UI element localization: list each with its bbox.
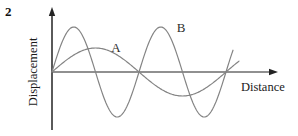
- question-number: 2: [5, 5, 12, 18]
- y-axis-arrowhead-icon: [49, 7, 55, 16]
- x-axis-label: Distance: [241, 81, 285, 94]
- y-axis-label: Displacement: [27, 38, 40, 107]
- wave-b-label: B: [177, 21, 186, 34]
- physics-wave-figure: 2 Displacement Distance A B: [0, 0, 298, 136]
- wave-a-label: A: [111, 41, 120, 54]
- x-axis-arrowhead-icon: [269, 69, 278, 75]
- wave-figure-svg: [0, 0, 298, 136]
